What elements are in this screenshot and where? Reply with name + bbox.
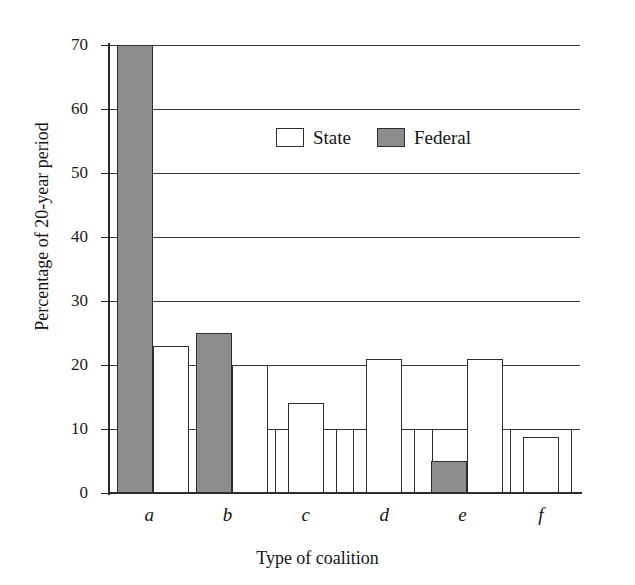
y-axis-tick: [101, 237, 109, 238]
open-square-icon: [276, 128, 304, 147]
y-axis-tick-label: 70: [48, 36, 88, 53]
figure-canvas: State Federal Percentage of 20-year peri…: [0, 0, 635, 585]
y-axis-tick-label: 60: [48, 100, 88, 117]
bar-federal-a: [117, 45, 153, 493]
plot-area: [110, 45, 580, 493]
bar-state-b: [232, 365, 268, 493]
y-axis-tick-label: 50: [48, 164, 88, 181]
y-axis-tick: [101, 301, 109, 302]
filled-square-icon: [377, 128, 405, 147]
bar-state-a: [153, 346, 189, 493]
bar-state-c: [288, 403, 324, 493]
y-axis-tick-label: 40: [48, 228, 88, 245]
y-axis-tick: [101, 365, 109, 366]
gridline: [110, 173, 580, 174]
legend-entry-federal: Federal: [377, 128, 471, 147]
bar-federal-b: [196, 333, 232, 493]
legend-entry-state: State: [276, 128, 351, 147]
chart-legend: State Federal: [272, 126, 475, 149]
bar-state-d: [366, 359, 402, 493]
gridline: [110, 109, 580, 110]
y-axis-tick: [101, 429, 109, 430]
x-axis-category-label-d: d: [364, 504, 404, 526]
y-axis-tick-label: 30: [48, 292, 88, 309]
x-axis-title: Type of coalition: [0, 548, 635, 569]
y-axis-tick-label: 20: [48, 356, 88, 373]
bar-state-e: [467, 359, 503, 493]
bar-federal-e: [431, 461, 467, 493]
x-axis-category-label-a: a: [129, 504, 169, 526]
y-axis-tick-label: 0: [48, 484, 88, 501]
x-axis-category-label-c: c: [286, 504, 326, 526]
y-axis-tick: [101, 109, 109, 110]
x-axis-category-label-b: b: [208, 504, 248, 526]
y-axis-tick-label: 10: [48, 420, 88, 437]
x-axis-category-label-f: f: [521, 504, 561, 526]
gridline: [110, 237, 580, 238]
y-axis-tick: [101, 493, 109, 494]
y-axis-tick: [101, 173, 109, 174]
y-axis-tick: [101, 45, 109, 46]
gridline: [110, 45, 580, 46]
bar-state-f: [523, 437, 559, 493]
x-axis-category-label-e: e: [443, 504, 483, 526]
y-axis-title: Percentage of 20-year period: [32, 17, 53, 437]
legend-label-state: State: [313, 128, 351, 147]
gridline: [110, 301, 580, 302]
legend-label-federal: Federal: [414, 128, 471, 147]
